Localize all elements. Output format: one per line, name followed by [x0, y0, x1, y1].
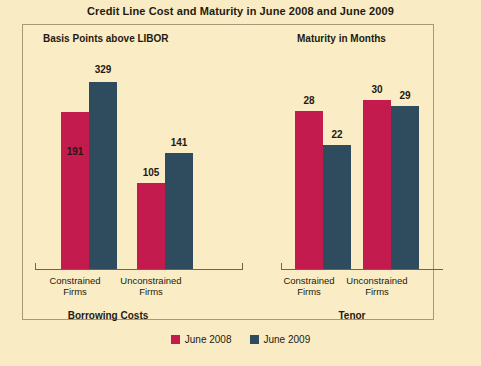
- bar-label-borrowing-unconstrained-2008: 105: [134, 167, 168, 178]
- bar-tenor-unconstrained-2008: [363, 100, 391, 269]
- panel-left-y-axis-tick: [35, 263, 36, 270]
- bar-label-tenor-constrained-2008: 28: [292, 95, 326, 106]
- cat-label-line2: Firms: [108, 286, 194, 297]
- panel-right-heading: Maturity in Months: [297, 33, 386, 44]
- chart-legend: June 2008 June 2009: [0, 334, 481, 345]
- bar-tenor-unconstrained-2009: [391, 106, 419, 269]
- bar-borrowing-unconstrained-2008: [137, 183, 165, 269]
- bar-borrowing-constrained-2008: [61, 112, 89, 269]
- cat-label-borrowing-unconstrained: Unconstrained Firms: [108, 275, 194, 297]
- legend-label-june-2008: June 2008: [185, 334, 232, 345]
- panel-left-x-axis-end-tick: [242, 263, 243, 270]
- bar-label-borrowing-constrained-2009: 329: [86, 64, 120, 75]
- bar-tenor-constrained-2008: [295, 111, 323, 269]
- panel-borrowing-costs: Basis Points above LIBOR 191 329 Constra…: [23, 25, 255, 321]
- legend-swatch-june-2009: [250, 335, 259, 344]
- bar-label-borrowing-unconstrained-2009: 141: [162, 137, 196, 148]
- panel-tenor: Maturity in Months 28 22 Constrained Fir…: [255, 25, 435, 321]
- cat-label-line2: Firms: [334, 286, 420, 297]
- panel-right-footer: Tenor: [317, 310, 387, 321]
- bar-label-tenor-constrained-2009: 22: [320, 129, 354, 140]
- plot-frame: Basis Points above LIBOR 191 329 Constra…: [22, 24, 434, 320]
- bar-borrowing-constrained-2009: [89, 82, 117, 269]
- legend-label-june-2009: June 2009: [264, 334, 311, 345]
- legend-item-june-2008: June 2008: [171, 334, 232, 345]
- legend-item-june-2009: June 2009: [250, 334, 311, 345]
- cat-label-tenor-unconstrained: Unconstrained Firms: [334, 275, 420, 297]
- bar-label-borrowing-constrained-2008: 191: [58, 146, 92, 157]
- cat-label-line1: Unconstrained: [108, 275, 194, 286]
- panel-left-x-axis: [35, 269, 243, 270]
- bar-tenor-constrained-2009: [323, 145, 351, 269]
- cat-label-borrowing-constrained: Constrained Firms: [32, 275, 118, 297]
- cat-label-line2: Firms: [32, 286, 118, 297]
- panel-left-footer: Borrowing Costs: [53, 310, 163, 321]
- bar-borrowing-unconstrained-2009: [165, 153, 193, 269]
- panel-left-heading: Basis Points above LIBOR: [43, 33, 169, 44]
- bar-label-tenor-unconstrained-2009: 29: [388, 90, 422, 101]
- cat-label-line1: Unconstrained: [334, 275, 420, 286]
- chart-title: Credit Line Cost and Maturity in June 20…: [0, 5, 481, 17]
- panel-right-x-axis: [281, 269, 443, 270]
- panel-right-y-axis-tick: [281, 263, 282, 270]
- legend-swatch-june-2008: [171, 335, 180, 344]
- cat-label-line1: Constrained: [32, 275, 118, 286]
